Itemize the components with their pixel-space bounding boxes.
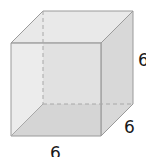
width-label: 6: [50, 143, 61, 157]
cube-diagram: 6 6 6: [0, 0, 146, 157]
depth-label: 6: [124, 117, 135, 137]
height-label: 6: [138, 50, 146, 70]
